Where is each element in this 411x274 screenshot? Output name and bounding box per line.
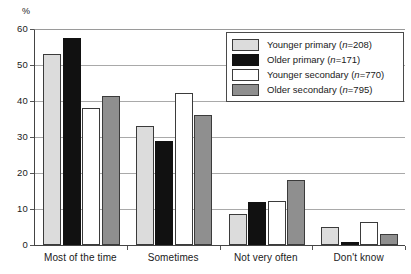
x-tick-mark — [405, 246, 406, 250]
y-tick-label: 0 — [2, 240, 28, 250]
bar — [175, 93, 193, 245]
legend-swatch-icon — [232, 84, 259, 96]
x-tick-mark — [127, 246, 128, 250]
legend-item: Younger primary (n=208) — [232, 37, 398, 52]
x-tick-mark — [312, 246, 313, 250]
bar — [248, 202, 266, 245]
y-tick-label: 10 — [2, 204, 28, 214]
legend-swatch-icon — [232, 54, 259, 66]
bar-chart: % 0102030405060 Most of the timeSometime… — [0, 0, 411, 274]
bar — [194, 115, 212, 245]
y-tick-label: 40 — [2, 96, 28, 106]
legend-item: Older secondary (n=795) — [232, 82, 398, 97]
x-tick-mark — [220, 246, 221, 250]
bar — [229, 214, 247, 245]
y-tick-label: 30 — [2, 132, 28, 142]
legend-label: Younger primary (n=208) — [267, 40, 372, 50]
bar — [380, 234, 398, 245]
bar — [360, 222, 378, 245]
bar — [268, 201, 286, 245]
legend-label: Older primary (n=171) — [267, 55, 360, 65]
legend-label: Younger secondary (n=770) — [267, 70, 384, 80]
bar — [155, 141, 173, 245]
legend-item: Younger secondary (n=770) — [232, 67, 398, 82]
y-tick-label: 20 — [2, 168, 28, 178]
y-tick-label: 60 — [2, 24, 28, 34]
bar — [63, 38, 81, 245]
legend-label: Older secondary (n=795) — [267, 85, 372, 95]
y-axis-unit-label: % — [22, 6, 30, 16]
legend-swatch-icon — [232, 39, 259, 51]
bar — [287, 180, 305, 245]
y-tick-label: 50 — [2, 60, 28, 70]
bar — [43, 54, 61, 245]
bar — [82, 108, 100, 245]
x-category-label: Don't know — [289, 252, 411, 263]
bar — [136, 126, 154, 245]
legend: Younger primary (n=208)Older primary (n=… — [226, 32, 404, 102]
bar — [321, 227, 339, 245]
bar — [102, 96, 120, 245]
legend-swatch-icon — [232, 69, 259, 81]
legend-item: Older primary (n=171) — [232, 52, 398, 67]
